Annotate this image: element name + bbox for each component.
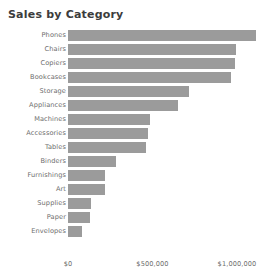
bar-category-label: Supplies [0,199,66,208]
x-axis-tick-label: $1,000,000 [218,260,257,269]
bar-track [68,128,268,139]
x-axis-tick-label: $500,000 [136,260,168,269]
bar-fill[interactable] [68,72,231,83]
bar-fill[interactable] [68,86,189,97]
bar-track [68,170,268,181]
bar-track [68,212,268,223]
bar-track [68,184,268,195]
x-axis-tick-label: $0 [64,260,73,269]
bar-row: Appliances [0,99,277,113]
bar-track [68,44,268,55]
bar-category-label: Appliances [0,101,66,110]
bar-fill[interactable] [68,198,91,209]
bar-row: Art [0,183,277,197]
bar-fill[interactable] [68,212,90,223]
bar-fill[interactable] [68,100,178,111]
bar-track [68,156,268,167]
bar-track [68,226,268,237]
bar-category-label: Binders [0,157,66,166]
bar-row: Bookcases [0,71,277,85]
bar-row: Phones [0,29,277,43]
bar-category-label: Paper [0,213,66,222]
bar-category-label: Art [0,185,66,194]
bar-row: Machines [0,113,277,127]
bar-track [68,142,268,153]
bar-category-label: Phones [0,31,66,40]
bar-row: Furnishings [0,169,277,183]
bar-category-label: Envelopes [0,227,66,236]
bar-category-label: Accessories [0,129,66,138]
bar-category-label: Chairs [0,45,66,54]
bar-track [68,30,268,41]
bar-track [68,58,268,69]
bar-fill[interactable] [68,226,82,237]
bar-category-label: Copiers [0,59,66,68]
bar-fill[interactable] [68,184,105,195]
bar-fill[interactable] [68,142,146,153]
bar-track [68,100,268,111]
x-axis: $0$500,000$1,000,000 [0,256,277,278]
bar-row: Paper [0,211,277,225]
bar-fill[interactable] [68,30,256,41]
bar-track [68,198,268,209]
bar-row: Tables [0,141,277,155]
bar-row: Storage [0,85,277,99]
bar-fill[interactable] [68,128,148,139]
bar-category-label: Bookcases [0,73,66,82]
chart-container: Sales by Category PhonesChairsCopiersBoo… [0,0,277,278]
bar-category-label: Furnishings [0,171,66,180]
bar-row: Copiers [0,57,277,71]
bar-category-label: Machines [0,115,66,124]
bar-track [68,114,268,125]
bar-category-label: Tables [0,143,66,152]
bar-fill[interactable] [68,44,236,55]
bar-category-label: Storage [0,87,66,96]
bar-track [68,86,268,97]
bar-fill[interactable] [68,170,105,181]
page-title: Sales by Category [8,8,123,21]
bar-row: Envelopes [0,225,277,239]
bar-track [68,72,268,83]
bar-fill[interactable] [68,58,235,69]
bar-row: Chairs [0,43,277,57]
bar-fill[interactable] [68,114,150,125]
bar-row: Binders [0,155,277,169]
bar-row: Supplies [0,197,277,211]
bar-fill[interactable] [68,156,116,167]
plot-area: PhonesChairsCopiersBookcasesStorageAppli… [0,29,277,255]
bar-row: Accessories [0,127,277,141]
